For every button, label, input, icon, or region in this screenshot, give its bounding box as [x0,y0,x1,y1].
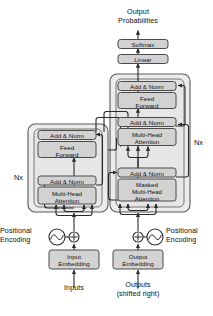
linear-label: Linear [118,56,168,63]
encoder-add-norm-bottom-label: Add & Norm [38,178,96,185]
transformer-architecture-diagram [0,0,213,316]
outputs-label-line2: (shifted right) [104,290,172,298]
softmax-label: Softmax [118,41,168,48]
input-embedding-label-line2: Embedding [49,260,99,267]
output-probabilities-label-line2: Probabilities [100,17,176,25]
positional-encoding-left-group [49,229,79,245]
decoder-cross-attention-label-line2: Attention [118,138,176,145]
encoder-feed-forward-label-line2: Forward [38,151,96,158]
output-embedding-label-line2: Embedding [113,260,163,267]
decoder-add-norm-mid-label: Add & Norm [118,119,176,126]
inputs-label: Inputs [48,284,100,292]
decoder-add-norm-top-label: Add & Norm [118,83,176,90]
positional-encoding-right-label-line2: Encoding [166,236,213,244]
decoder-feed-forward-label-line2: Forward [118,102,176,109]
nx-encoder-label: Nx [14,173,23,182]
encoder-self-attention-label-line2: Attention [38,197,96,204]
decoder-masked-attention-label-line3: Attention [118,195,176,202]
decoder-add-norm-bottom-label: Add & Norm [118,170,176,177]
positional-encoding-left-label-line2: Encoding [0,236,46,244]
positional-encoding-right-group [133,229,163,245]
encoder-add-norm-top-label: Add & Norm [38,132,96,139]
nx-decoder-label: Nx [194,138,203,147]
